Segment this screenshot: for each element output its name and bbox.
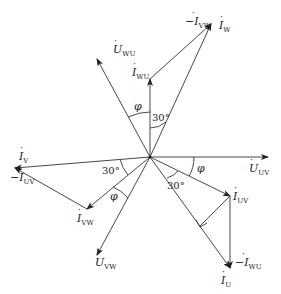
perpendicular-line [200,196,230,226]
label-U_VW: UVW · [95,249,117,271]
angle-phi-top: φ [134,100,142,113]
arc-30-left [120,159,128,175]
phasor-I_W [150,24,211,157]
label-I_U: IU · [220,267,231,289]
svg-text:·: · [242,249,245,259]
phasor-I_UV [150,157,230,196]
phasor-diagram: φ 30° φ 30° 30° φ UWU · IWU · −IVW · IW … [0,0,281,294]
angle-30-left: 30° [102,165,120,176]
svg-text:·: · [192,8,195,18]
label-I_WU: IWU · [131,59,150,81]
svg-text:·: · [78,205,81,215]
svg-text:·: · [20,143,23,153]
phasor-I_V [15,157,150,168]
angle-phi-right: φ [197,162,205,175]
angle-30-right: 30° [167,180,185,191]
angle-30-top: 30° [152,112,170,123]
svg-text:−IVW: −IVW [185,15,212,30]
svg-text:−IWU: −IWU [235,256,262,271]
svg-text:·: · [114,36,117,46]
label-U_UV: UUV · [249,155,270,177]
phasor-neg_I_UV [15,168,87,209]
phasor-neg_I_VW [150,24,211,79]
svg-text:·: · [96,249,99,259]
svg-text:·: · [222,267,225,277]
svg-text:−IUV: −IUV [10,171,35,186]
svg-text:·: · [234,183,237,193]
arc-phi-right [189,157,194,176]
svg-text:·: · [220,12,223,22]
origin-point [149,156,152,159]
angle-phi-left: φ [110,190,118,203]
label-I_UV: IUV · [232,183,249,205]
svg-text:·: · [250,155,253,165]
svg-text:·: · [133,59,136,69]
label-neg_I_WU: −IWU · [235,249,262,271]
label-U_WU: UWU · [113,36,135,58]
label-I_V: IV · [18,143,29,165]
label-neg_I_VW: −IVW · [185,8,212,30]
label-I_W: IW · [218,12,231,34]
svg-text:·: · [17,164,20,174]
arc-30-right [167,171,178,178]
